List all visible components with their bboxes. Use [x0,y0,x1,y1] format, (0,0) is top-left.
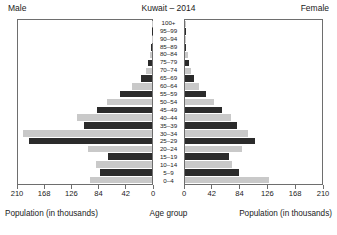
male-bar-row [18,161,152,169]
age-group-label: 10–14 [153,161,184,169]
female-bar [185,44,186,50]
male-bar-row [18,90,152,98]
male-bar-row [18,20,152,28]
male-bar [23,130,152,136]
male-bar-row [18,59,152,67]
male-axis-tick-label: 126 [65,189,78,198]
male-bar-row [18,114,152,122]
age-group-column: 100+95–9990–9485–8980–8475–7970–7465–696… [153,19,184,185]
female-bar-row [185,98,322,106]
female-bar-row [185,59,322,67]
female-x-axis: 04284126168210 [184,185,323,199]
male-bar [77,114,152,120]
male-axis-tick-label: 210 [11,189,24,198]
female-axis-tick-label: 126 [261,189,274,198]
male-bar-row [18,67,152,75]
age-group-label: 80–84 [153,51,184,59]
age-group-label: 40–44 [153,114,184,122]
female-bar-row [185,36,322,44]
age-group-label: 65–69 [153,74,184,82]
age-group-label: 35–39 [153,122,184,130]
female-bar-row [185,28,322,36]
chart-title: Kuwait – 2014 [0,3,337,13]
male-bar-row [18,122,152,130]
male-bar-row [18,75,152,83]
female-bar-row [185,20,322,28]
male-bar-row [18,176,152,184]
female-bar [185,60,189,66]
female-axis-tick-label: 168 [289,189,302,198]
male-bar [100,169,152,175]
female-bar [185,99,214,105]
female-bar [185,75,194,81]
male-bar-row [18,168,152,176]
age-group-label: 75–79 [153,59,184,67]
female-bar [185,130,248,136]
female-bar-row [185,153,322,161]
population-pyramid-chart: Male Kuwait – 2014 Female 100+95–9990–94… [0,0,337,235]
female-bar-row [185,129,322,137]
female-bar [185,122,237,128]
female-bar-row [185,90,322,98]
female-bar [185,169,239,175]
male-bar-row [18,137,152,145]
male-bar [120,91,152,97]
male-bar [107,99,152,105]
female-bar [185,177,269,183]
age-group-label: 70–74 [153,66,184,74]
female-bar-row [185,106,322,114]
male-bar-row [18,28,152,36]
female-axis-tick-label: 42 [208,189,216,198]
female-bar-rows [185,20,322,184]
age-group-label: 30–34 [153,130,184,138]
female-axis-caption: Population (in thousands) [239,209,332,218]
female-axis-tick-label: 84 [235,189,243,198]
female-bar-row [185,75,322,83]
age-group-label: 100+ [153,19,184,27]
male-bar-row [18,83,152,91]
female-bar-row [185,168,322,176]
male-x-axis: 21016812684420 [17,185,153,199]
male-bar [97,107,152,113]
male-bar [108,153,152,159]
male-bar-row [18,106,152,114]
female-bar [185,68,191,74]
male-axis-tick-label: 168 [38,189,51,198]
male-bar-row [18,98,152,106]
age-group-label: 45–49 [153,106,184,114]
male-bar-row [18,153,152,161]
male-bar-row [18,36,152,44]
female-bar [185,52,188,58]
female-bar-row [185,137,322,145]
age-group-label: 5–9 [153,169,184,177]
female-axis-tick-label: 0 [182,189,186,198]
male-axis-tick-label: 84 [94,189,102,198]
male-bar [151,44,152,50]
female-axis-tick-label: 210 [317,189,330,198]
male-bar [141,75,152,81]
male-bar-row [18,43,152,51]
age-group-label: 85–89 [153,43,184,51]
female-bar-row [185,83,322,91]
age-group-label: 60–64 [153,82,184,90]
female-bar-row [185,51,322,59]
age-group-label: 95–99 [153,27,184,35]
female-bar-row [185,114,322,122]
male-axis-tick-label: 42 [122,189,130,198]
female-bar [185,114,231,120]
male-bar [132,83,152,89]
male-bar-row [18,145,152,153]
female-bar [185,107,222,113]
female-bar [185,146,242,152]
male-axis-tick-label: 0 [151,189,155,198]
female-bar-row [185,161,322,169]
age-group-label: 25–29 [153,138,184,146]
male-bar-row [18,129,152,137]
female-bar [185,138,255,144]
age-group-label: 20–24 [153,146,184,154]
female-bar-row [185,67,322,75]
female-bar-row [185,122,322,130]
male-bar [88,146,152,152]
male-bar [84,122,152,128]
female-bar-row [185,176,322,184]
